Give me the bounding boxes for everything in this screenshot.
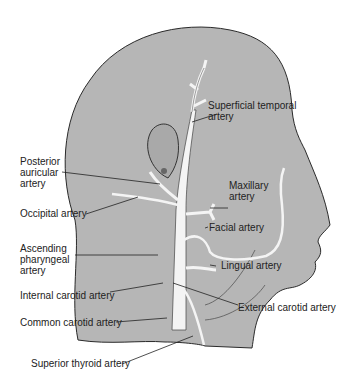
artery-diagram: Superficial temporal artery Posterior au… xyxy=(0,0,353,390)
label-ascending-pharyngeal-artery: Ascending pharyngeal artery xyxy=(20,243,69,276)
label-lingual-artery: Lingual artery xyxy=(221,260,282,271)
label-common-carotid-artery: Common carotid artery xyxy=(20,317,122,328)
label-superior-thyroid-artery: Superior thyroid artery xyxy=(31,358,130,369)
head-neck-illustration xyxy=(0,0,353,390)
label-external-carotid-artery: External carotid artery xyxy=(238,302,336,313)
label-occipital-artery: Occipital artery xyxy=(20,208,87,219)
label-internal-carotid-artery: Internal carotid artery xyxy=(20,290,115,301)
label-maxillary-artery: Maxillary artery xyxy=(229,180,268,202)
label-facial-artery: Facial artery xyxy=(209,222,264,233)
label-superficial-temporal-artery: Superficial temporal artery xyxy=(208,100,296,122)
label-posterior-auricular-artery: Posterior auricular artery xyxy=(20,156,60,189)
